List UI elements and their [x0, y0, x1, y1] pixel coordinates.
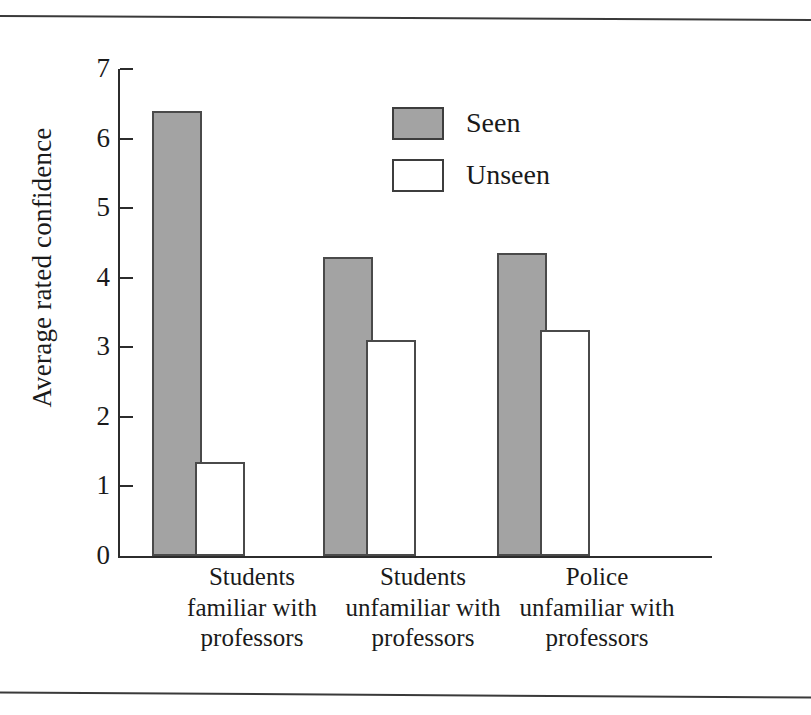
y-tick-label-1: 1	[80, 472, 110, 499]
y-tick-label-5: 5	[80, 194, 110, 221]
bar-unseen-group-2	[366, 340, 416, 556]
bar-unseen-group-1	[195, 462, 245, 556]
y-tick-label-6: 6	[80, 125, 110, 152]
legend-swatch-unseen-icon	[392, 159, 444, 192]
page-rule-bottom	[0, 692, 811, 699]
y-tick-label-7: 7	[80, 55, 110, 82]
y-tick-label-0: 0	[80, 542, 110, 569]
legend-item-unseen: Unseen	[392, 152, 642, 198]
y-axis-title: Average rated confidence	[27, 58, 58, 478]
y-tick-label-4: 4	[80, 264, 110, 291]
bar-unseen-group-3	[540, 330, 590, 556]
chart-legend: Seen Unseen	[392, 100, 642, 204]
legend-label-seen: Seen	[466, 109, 520, 137]
legend-swatch-seen-icon	[392, 107, 444, 140]
x-axis-line	[118, 556, 712, 558]
figure-container: 01234567 Average rated confidence Seen U…	[0, 0, 811, 715]
page-rule-top	[0, 15, 811, 21]
legend-item-seen: Seen	[392, 100, 642, 146]
x-axis-category-labels: Students familiar with professorsStudent…	[118, 562, 718, 672]
x-axis-label-3: Police unfamiliar with professors	[487, 562, 707, 654]
y-tick-label-2: 2	[80, 403, 110, 430]
legend-label-unseen: Unseen	[466, 161, 550, 189]
y-tick-label-3: 3	[80, 333, 110, 360]
